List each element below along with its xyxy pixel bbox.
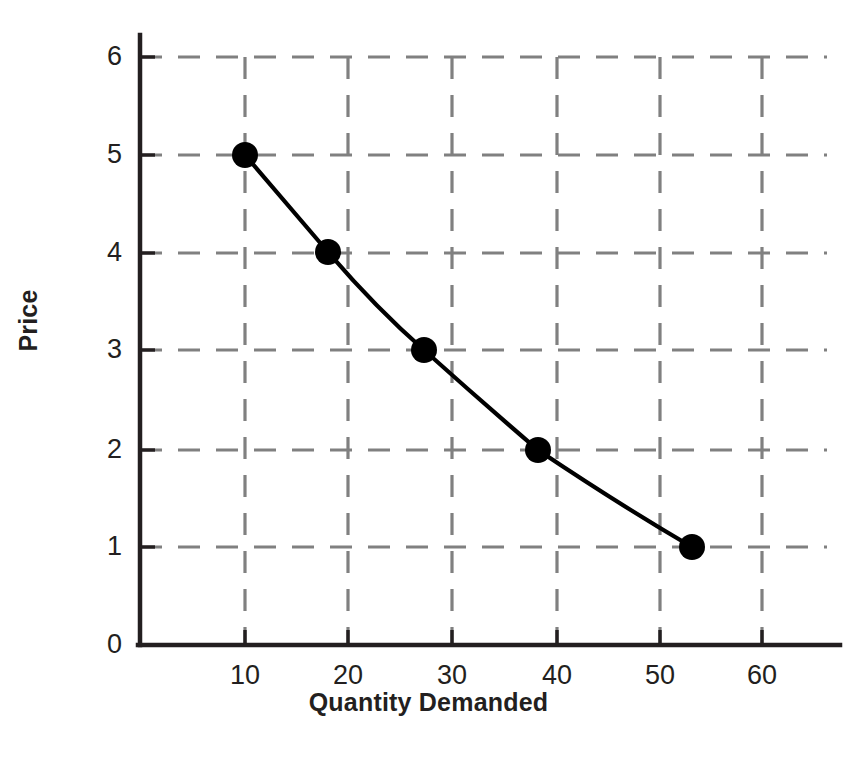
ytick-label-4: 4 [76, 239, 122, 266]
data-point-q38-p2 [525, 437, 551, 463]
xtick-label-40: 40 [527, 662, 587, 689]
ytick-label-3: 3 [76, 336, 122, 363]
ytick-label-2: 2 [76, 436, 122, 463]
axis-lines [138, 35, 840, 645]
data-point-q10-p5 [232, 142, 258, 168]
ytick-label-5: 5 [76, 141, 122, 168]
demand-curve-chart: 6 5 4 3 2 1 0 10 20 30 40 50 60 Quantity… [0, 0, 857, 757]
xtick-label-60: 60 [732, 662, 792, 689]
x-axis-title: Quantity Demanded [0, 688, 857, 717]
data-point-q18-p4 [315, 239, 341, 265]
y-axis-title: Price [14, 271, 43, 371]
ytick-label-6: 6 [76, 43, 122, 70]
horizontal-gridlines [140, 57, 827, 547]
chart-plot-area [0, 0, 857, 757]
xtick-label-50: 50 [630, 662, 690, 689]
xtick-label-10: 10 [215, 662, 275, 689]
xtick-label-20: 20 [318, 662, 378, 689]
ytick-label-1: 1 [76, 533, 122, 560]
data-point-q53-p1 [679, 534, 705, 560]
data-point-q27-p3 [411, 337, 437, 363]
xtick-label-30: 30 [422, 662, 482, 689]
ytick-label-0: 0 [76, 631, 122, 658]
